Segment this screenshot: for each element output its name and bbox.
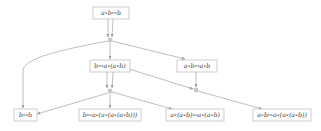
node-state: a∘b↔a∘(a∘(a∘b))	[253, 109, 311, 121]
node-label: b↔a∘(a∘(a∘(a∘b)))	[83, 111, 138, 118]
node-label: b↔a∘(a∘b)	[94, 62, 126, 69]
edge-n0-j0-b	[112, 19, 113, 37]
edge-n1-j1-b	[112, 72, 113, 88]
node-label: a∘b↔a∘(a∘(a∘b))	[257, 111, 307, 118]
node-state: a∘(a∘b)↔a∘(a∘b)	[166, 109, 224, 121]
edge-j0-n2	[112, 41, 185, 59]
junction-dot	[108, 38, 113, 43]
node-state: b↔a∘(a∘b)	[90, 60, 130, 72]
edge-j2-n6	[198, 91, 262, 109]
node-label: a∘(a∘b)↔a∘(a∘b)	[170, 111, 220, 118]
node-label: a∘b↔a∘b	[184, 62, 211, 69]
edge-j1-n5	[112, 92, 172, 109]
node-label: a∘b↔b	[101, 9, 121, 16]
junction-dot	[108, 89, 113, 94]
edge-j0-n3	[23, 41, 108, 108]
node-state: a∘b↔b	[93, 7, 129, 19]
multiway-graph: a∘b↔b b↔a∘(a∘b) a∘b↔a∘b b↔b b↔a∘(a∘(a∘(a…	[0, 0, 321, 131]
node-state: b↔b	[14, 109, 37, 121]
node-state: b↔a∘(a∘(a∘(a∘b)))	[79, 109, 141, 121]
node-label: b↔b	[19, 111, 32, 118]
junction-dot	[194, 88, 199, 93]
node-state: a∘b↔a∘b	[177, 60, 217, 72]
